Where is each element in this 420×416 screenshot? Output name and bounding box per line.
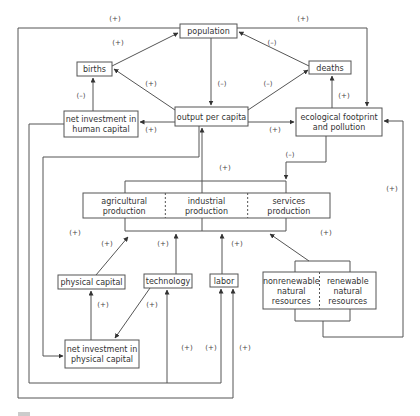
- agricultural-label: production: [103, 207, 146, 216]
- sign-labor-outer: (+): [239, 344, 251, 352]
- sign-labor-inner: (+): [205, 344, 217, 352]
- net-investment-physical-capital-label: physical capital: [71, 355, 133, 364]
- node-net-investment-physical-capital: net investment inphysical capital: [65, 340, 139, 368]
- sign-output-human: (+): [145, 126, 157, 134]
- bracket-resources-bottom: [295, 309, 350, 321]
- net-investment-human-capital-label: human capital: [72, 125, 129, 134]
- nonrenewable-label: resources: [272, 297, 311, 306]
- sign-human-births: (–): [77, 92, 86, 100]
- production-sector-agricultural: agriculturalproduction: [101, 197, 147, 216]
- deaths-label: deaths: [316, 64, 343, 73]
- sign-births-population: (+): [112, 39, 124, 47]
- net-investment-physical-capital-label: net investment in: [67, 345, 138, 354]
- arrow-births-to-population: [112, 33, 178, 66]
- renewable-label: renewable: [327, 277, 369, 286]
- node-physical-capital: physical capital: [58, 275, 125, 289]
- agricultural-label: agricultural: [101, 197, 147, 206]
- production-block: agriculturalproductionindustrialproducti…: [83, 193, 330, 218]
- node-births: births: [77, 62, 112, 76]
- sign-production-output: (+): [219, 164, 231, 172]
- sign-eco-deaths: (+): [338, 92, 350, 100]
- sign-deaths-population: (–): [268, 39, 277, 47]
- arrow-output-to-deaths: [248, 70, 308, 110]
- industrial-label: industrial: [188, 197, 225, 206]
- node-population: population: [180, 24, 237, 38]
- economy-feedback-diagram: agriculturalproductionindustrialproducti…: [0, 0, 420, 416]
- sign-output-deaths: (–): [264, 80, 273, 88]
- sign-technology-production: (+): [157, 240, 169, 248]
- ecological-footprint-label: ecological footprint: [300, 113, 377, 122]
- population-label: population: [187, 27, 230, 36]
- sign-loop-left: (+): [69, 229, 81, 237]
- natural-resources-block: nonrenewablenaturalresourcesrenewablenat…: [263, 272, 376, 309]
- services-label: services: [272, 197, 305, 206]
- arrow-output-to-births: [114, 69, 175, 110]
- sign-tech-loop: (+): [181, 344, 193, 352]
- sign-population-outer: (+): [109, 15, 121, 23]
- node-output-per-capita: output per capita: [175, 107, 248, 126]
- labor-label: labor: [214, 277, 235, 286]
- bracket-resources-top: [295, 261, 350, 272]
- renewable-label: natural: [333, 287, 362, 296]
- arrow-technology-to-physical-investment: [115, 288, 150, 338]
- arrow-resources-to-production: [270, 234, 309, 261]
- physical-capital-label: physical capital: [60, 278, 122, 287]
- sign-resources-production: (+): [320, 229, 332, 237]
- sign-technology-investment: (+): [146, 301, 158, 309]
- node-net-investment-human-capital: net investment inhuman capital: [64, 111, 138, 137]
- arrow-deaths-to-population: [239, 32, 309, 66]
- births-label: births: [83, 65, 106, 74]
- sign-population-output: (–): [218, 80, 227, 88]
- node-technology: technology: [144, 274, 192, 288]
- sign-investment-physical: (+): [97, 301, 109, 309]
- node-labor: labor: [210, 274, 238, 287]
- legend-swatch: [18, 412, 30, 416]
- legend: [18, 412, 30, 416]
- bracket-production-bottom: [125, 218, 286, 231]
- sign-physical-production: (+): [101, 240, 113, 248]
- nonrenewable-label: natural: [277, 287, 306, 296]
- ecological-footprint-label: and pollution: [313, 123, 365, 132]
- bracket-production-top: [125, 181, 286, 193]
- nonrenewable-label: nonrenewable: [263, 277, 320, 286]
- renewable-label: resources: [328, 297, 367, 306]
- node-ecological-footprint: ecological footprintand pollution: [296, 108, 382, 136]
- sign-eco-production: (–): [286, 151, 295, 159]
- node-deaths: deaths: [309, 61, 351, 74]
- sign-labor-production: (+): [231, 240, 243, 248]
- services-label: production: [267, 207, 310, 216]
- sign-output-eco: (+): [269, 126, 281, 134]
- technology-label: technology: [146, 277, 191, 286]
- net-investment-human-capital-label: net investment in: [66, 115, 137, 124]
- sign-resources-eco: (+): [386, 185, 398, 193]
- sign-output-births: (+): [145, 80, 157, 88]
- output-per-capita-label: output per capita: [177, 113, 247, 122]
- industrial-label: production: [185, 207, 228, 216]
- sign-population-eco: (+): [297, 15, 309, 23]
